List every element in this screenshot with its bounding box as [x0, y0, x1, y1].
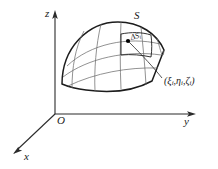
mesh-v-line-2 — [95, 24, 101, 91]
coord-eta: ,η — [174, 75, 181, 86]
surface-integral-figure: z y x O S ΔSi (ξi,ηi,ζi) — [0, 0, 218, 169]
x-axis-label: x — [24, 151, 29, 162]
x-axis-arrowhead — [13, 147, 22, 154]
z-axis-label: z — [45, 8, 49, 19]
coord-open-xi: (ξ — [164, 75, 172, 86]
coord-close-paren: ) — [191, 75, 194, 86]
surface-label: S — [134, 10, 140, 21]
coordinate-point-label: (ξi,ηi,ζi) — [164, 76, 195, 87]
surface-s — [62, 22, 164, 91]
mesh-v-line-3 — [120, 22, 121, 89]
mesh-u-line-3 — [68, 68, 158, 86]
y-axis-label: y — [184, 116, 189, 127]
origin-label: O — [57, 115, 65, 126]
x-axis — [18, 114, 55, 149]
